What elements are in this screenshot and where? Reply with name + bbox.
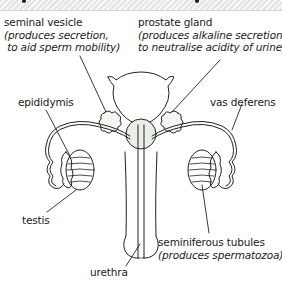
label-description: (produces alkaline secretion <box>138 29 282 42</box>
vas-deferens-left <box>46 121 131 188</box>
label-epididymis: epididymis <box>18 96 74 109</box>
vas-deferens-right <box>152 121 237 188</box>
label-prostate-gland: prostate gland (produces alkaline secret… <box>138 16 282 54</box>
penis-outline <box>124 152 159 258</box>
label-seminiferous-tubules: seminiferous tubules (produces spermatoz… <box>158 236 282 261</box>
label-description: to aid sperm mobility) <box>4 41 120 54</box>
testis-right <box>188 150 216 190</box>
label-vas-deferens: vas deferens <box>210 96 276 109</box>
label-description: to neutralise acidity of urine) <box>138 41 282 54</box>
label-urethra: urethra <box>90 266 128 279</box>
seminiferous-tubules-left <box>67 157 93 182</box>
label-seminal-vesicle: seminal vesicle (produces secretion, to … <box>4 16 120 54</box>
prostate-gland <box>126 119 156 149</box>
seminiferous-tubules-right <box>189 157 215 182</box>
label-name: seminal vesicle <box>4 16 120 29</box>
label-description: (produces spermatozoa) <box>158 249 282 262</box>
label-description: (produces secretion, <box>4 29 120 42</box>
label-testis: testis <box>22 214 50 227</box>
label-name: seminiferous tubules <box>158 236 282 249</box>
label-name: prostate gland <box>138 16 282 29</box>
